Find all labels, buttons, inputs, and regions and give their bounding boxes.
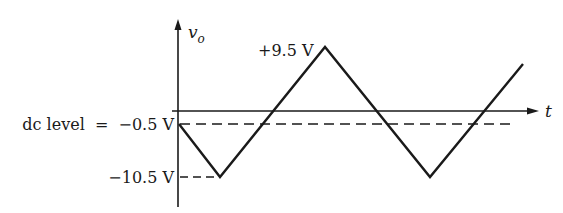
- waveform-diagram: vo t +9.5 V dc level = −0.5 V −10.5 V: [0, 0, 563, 213]
- time-axis-arrow-icon: [527, 108, 539, 115]
- triangle-waveform: [179, 47, 523, 177]
- vo-axis-label: vo: [188, 22, 205, 46]
- dc-level-label: dc level = −0.5 V: [22, 115, 174, 134]
- trough-label: −10.5 V: [108, 168, 174, 187]
- peak-label: +9.5 V: [258, 41, 314, 60]
- time-axis-label: t: [545, 101, 552, 121]
- vo-axis-arrow-icon: [175, 19, 182, 30]
